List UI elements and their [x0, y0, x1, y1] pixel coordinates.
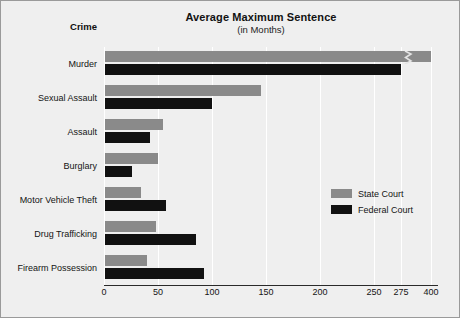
legend-item: Federal Court — [331, 203, 413, 216]
category-label: Firearm Possession — [1, 251, 97, 285]
bar-federal-court — [105, 268, 204, 279]
x-axis-line — [104, 285, 438, 286]
plot-area — [104, 47, 438, 285]
bar-group — [104, 47, 438, 81]
bar-group — [104, 115, 438, 149]
x-axis-tick-labels: 050100150200250275400 — [104, 287, 438, 307]
x-tick-label: 250 — [366, 287, 381, 297]
legend-label: State Court — [358, 189, 404, 199]
category-label: Assault — [1, 115, 97, 149]
x-tick-label: 275 — [393, 287, 408, 297]
bar-federal-court — [105, 132, 150, 143]
x-tick-label: 150 — [258, 287, 273, 297]
bar-federal-court — [105, 200, 166, 211]
legend: State CourtFederal Court — [331, 187, 413, 219]
bar-state-court — [105, 51, 431, 62]
chart-title-block: Average Maximum Sentence (in Months) — [111, 11, 411, 36]
legend-swatch — [331, 189, 352, 198]
legend-swatch — [331, 205, 352, 214]
x-tick-label: 100 — [204, 287, 219, 297]
bar-federal-court — [105, 64, 401, 75]
x-tick-label: 0 — [101, 287, 106, 297]
bar-federal-court — [105, 234, 196, 245]
category-label: Murder — [1, 47, 97, 81]
bar-state-court — [105, 187, 141, 198]
x-tick-label: 50 — [153, 287, 163, 297]
bar-group — [104, 149, 438, 183]
legend-label: Federal Court — [358, 205, 413, 215]
legend-item: State Court — [331, 187, 413, 200]
category-label: Drug Trafficking — [1, 217, 97, 251]
bar-group — [104, 217, 438, 251]
bar-group — [104, 251, 438, 285]
bar-state-court — [105, 221, 156, 232]
bar-state-court — [105, 153, 158, 164]
bar-series-container — [104, 47, 438, 285]
bar-federal-court — [105, 98, 212, 109]
bar-federal-court — [105, 166, 132, 177]
category-label: Burglary — [1, 149, 97, 183]
chart-title: Average Maximum Sentence — [111, 11, 411, 24]
category-axis-title: Crime — [1, 21, 97, 32]
category-label: Sexual Assault — [1, 81, 97, 115]
bar-state-court — [105, 85, 261, 96]
x-tick-label: 200 — [312, 287, 327, 297]
category-label: Motor Vehicle Theft — [1, 183, 97, 217]
chart-figure: Average Maximum Sentence (in Months) Cri… — [0, 0, 460, 318]
bar-group — [104, 81, 438, 115]
bar-state-court — [105, 255, 147, 266]
x-tick-label: 400 — [423, 287, 438, 297]
chart-subtitle: (in Months) — [111, 24, 411, 36]
bar-state-court — [105, 119, 163, 130]
category-label-list: MurderSexual AssaultAssaultBurglaryMotor… — [1, 47, 97, 285]
